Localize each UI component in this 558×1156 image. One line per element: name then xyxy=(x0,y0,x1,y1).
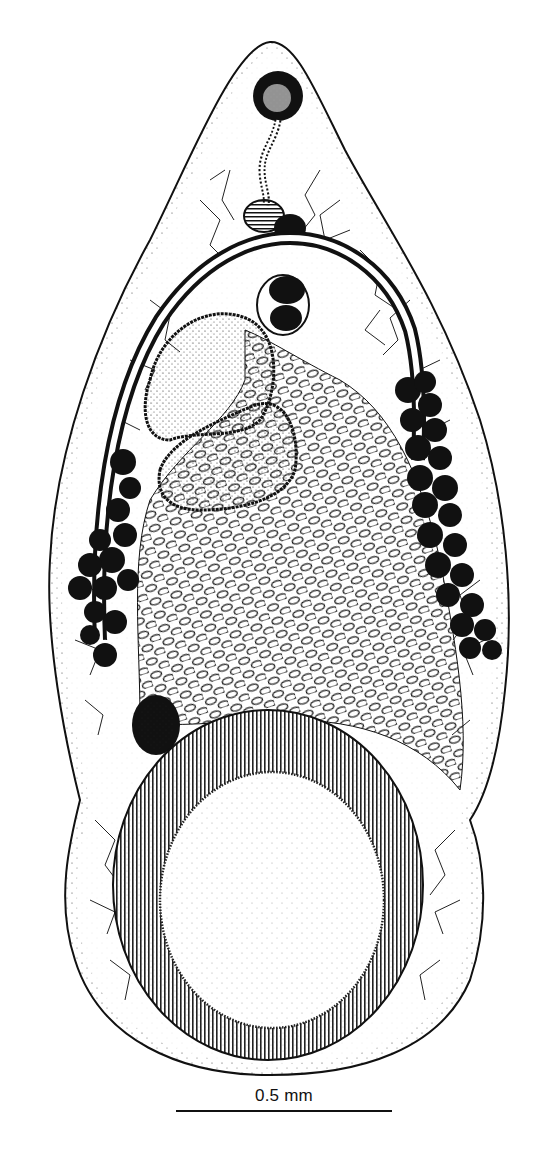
trematode-illustration xyxy=(0,0,558,1156)
scale-bar xyxy=(176,1110,392,1112)
scale-bar-label: 0.5 mm xyxy=(176,1086,392,1106)
